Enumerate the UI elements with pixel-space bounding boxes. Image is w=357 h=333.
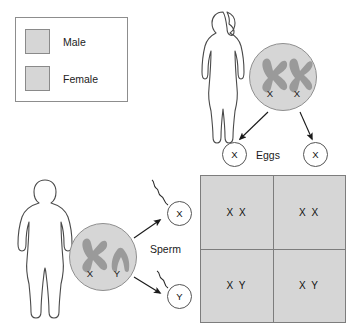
male-chromosome-label-x: X xyxy=(83,268,97,279)
punnett-cell-1-1: X Y xyxy=(274,250,346,323)
male-cell-circle: X Y xyxy=(69,223,137,291)
punnett-cell-1-0: X Y xyxy=(201,250,273,323)
sperm-label: Sperm xyxy=(150,243,181,255)
male-chromosome-label-y: Y xyxy=(110,268,124,279)
female-color-swatch xyxy=(25,66,50,91)
legend-label-male: Male xyxy=(63,36,86,48)
female-body-silhouette-icon xyxy=(193,8,255,148)
punnett-cell-0-1: X X xyxy=(274,176,346,249)
diagram-canvas: Male Female X X X X Eggs xyxy=(0,0,357,333)
legend-label-female: Female xyxy=(63,73,98,85)
arrow-male-to-sperm-y xyxy=(134,277,160,293)
eggs-label: Eggs xyxy=(256,149,280,161)
punnett-cell-0-0: X X xyxy=(201,176,273,249)
sperm-cell-y: Y xyxy=(167,284,192,309)
sperm-cell-x: X xyxy=(167,201,192,226)
sperm-tail-y xyxy=(157,271,168,288)
female-chromosome-label-2: X xyxy=(290,88,304,99)
female-chromosome-label-1: X xyxy=(263,88,277,99)
arrow-male-to-sperm-x xyxy=(134,220,160,238)
legend-item-male: Male xyxy=(25,29,86,54)
arrow-female-to-egg-right xyxy=(300,112,312,139)
sperm-tail-x xyxy=(152,180,168,205)
egg-cell-x-left: X xyxy=(222,142,247,167)
arrow-female-to-egg-left xyxy=(240,112,268,139)
legend-box: Male Female xyxy=(15,17,128,102)
punnett-square: X X X X X Y X Y xyxy=(200,175,346,323)
legend-item-female: Female xyxy=(25,66,98,91)
egg-cell-x-right: X xyxy=(303,142,328,167)
female-cell-circle: X X xyxy=(249,43,317,111)
female-chromosome-pair-icon xyxy=(250,44,316,110)
male-color-swatch xyxy=(25,29,50,54)
male-body-silhouette-icon xyxy=(12,176,78,322)
male-chromosome-pair-icon xyxy=(70,224,136,290)
